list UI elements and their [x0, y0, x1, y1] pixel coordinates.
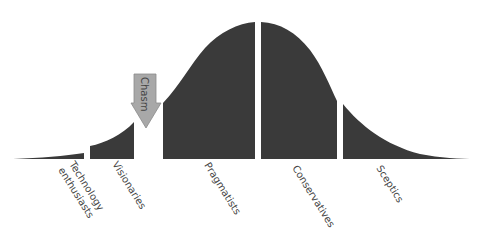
label-conservatives: Conservatives	[290, 163, 337, 228]
label-sceptics: Sceptics	[374, 163, 405, 204]
segment-sceptics	[343, 104, 476, 159]
segment-conservatives	[261, 22, 337, 159]
label-visionaries: Visionaries	[110, 159, 148, 211]
segment-technology-enthusiasts	[13, 153, 84, 159]
adoption-curve-diagram: Chasm Technology enthusiasts Visionaries…	[0, 0, 485, 228]
segment-pragmatists	[163, 22, 255, 159]
chasm-arrow-icon: Chasm	[131, 74, 161, 128]
chasm-label: Chasm	[139, 77, 150, 111]
segment-visionaries	[90, 122, 134, 159]
label-pragmatists: Pragmatists	[202, 160, 243, 216]
